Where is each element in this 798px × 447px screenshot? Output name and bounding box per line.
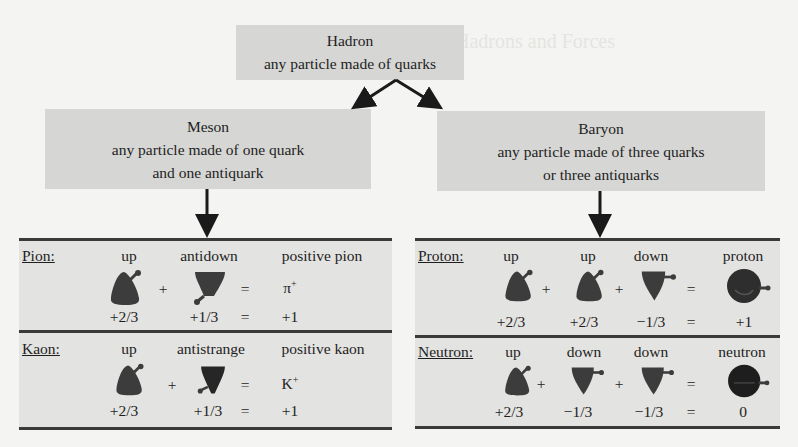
kaon-symbol: K <box>282 375 293 392</box>
plus-operator: + <box>615 375 624 393</box>
plus-operator: + <box>159 280 168 298</box>
arrow-icon <box>207 80 600 232</box>
particle-name: proton <box>723 247 763 265</box>
proton-icon <box>725 266 771 306</box>
equals-operator: = <box>687 375 696 393</box>
charge-value: +2/3 <box>495 403 524 421</box>
particle-name: positive kaon <box>281 340 364 358</box>
charge-superscript: + <box>293 374 299 385</box>
down-quark-icon <box>568 364 606 398</box>
equals-operator: = <box>241 280 250 298</box>
quark-name: antidown <box>180 247 238 265</box>
charge-value: +1/3 <box>194 402 223 420</box>
charge-value: +2/3 <box>110 402 139 420</box>
particle-symbol: π+ <box>283 278 296 297</box>
quark-name: up <box>503 247 519 265</box>
neutron-label: Neutron: <box>418 343 473 361</box>
quark-name: up <box>121 247 137 265</box>
charge-value: −1/3 <box>635 403 664 421</box>
charge-value: −1/3 <box>637 313 666 331</box>
equals-operator: = <box>687 280 696 298</box>
quark-name: down <box>634 343 668 361</box>
plus-operator: + <box>542 280 551 298</box>
charge-value: −1/3 <box>564 403 593 421</box>
up-quark-icon <box>572 268 608 304</box>
charge-equals: = <box>241 402 250 420</box>
charge-equals: = <box>687 313 696 331</box>
quark-name: antistrange <box>177 340 245 358</box>
plus-operator: + <box>615 280 624 298</box>
particle-name: positive pion <box>282 247 363 265</box>
charge-superscript: + <box>291 278 297 289</box>
up-quark-icon <box>112 362 148 398</box>
quark-name: up <box>505 343 521 361</box>
particle-symbol: K+ <box>282 374 299 393</box>
charge-value: +2/3 <box>570 313 599 331</box>
pion-label: Pion: <box>22 247 55 265</box>
plus-operator: + <box>168 376 177 394</box>
kaon-label: Kaon: <box>22 340 60 358</box>
plus-operator: + <box>537 375 546 393</box>
down-quark-icon <box>638 364 676 398</box>
up-quark-icon <box>501 268 537 304</box>
charge-value: +2/3 <box>110 308 139 326</box>
antidown-quark-icon <box>190 268 230 308</box>
down-quark-icon <box>638 268 678 304</box>
charge-value: +1/3 <box>190 308 219 326</box>
proton-label: Proton: <box>418 247 464 265</box>
charge-total: 0 <box>739 403 747 421</box>
charge-value: +2/3 <box>497 313 526 331</box>
particle-name: neutron <box>718 343 765 361</box>
up-quark-icon <box>106 268 146 308</box>
quark-name: up <box>580 247 596 265</box>
quark-name: up <box>121 340 137 358</box>
quark-name: down <box>634 247 668 265</box>
charge-total: +1 <box>282 402 299 420</box>
charge-total: +1 <box>736 313 753 331</box>
equals-operator: = <box>241 376 250 394</box>
up-quark-icon <box>501 364 535 398</box>
charge-equals: = <box>687 403 696 421</box>
quark-name: down <box>567 343 601 361</box>
pion-symbol: π <box>283 279 291 296</box>
neutron-icon <box>725 362 771 400</box>
antistrange-quark-icon <box>196 362 230 398</box>
charge-total: +1 <box>282 308 299 326</box>
charge-equals: = <box>241 308 250 326</box>
